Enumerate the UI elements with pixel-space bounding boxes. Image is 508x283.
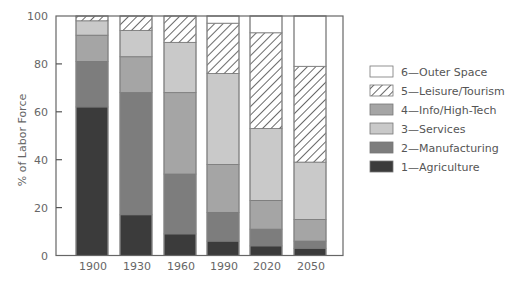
bar-segment xyxy=(294,248,326,255)
y-tick-label: 0 xyxy=(41,250,48,263)
x-tick-label: 2050 xyxy=(297,260,325,273)
bar-segment xyxy=(164,234,196,256)
bar-segment xyxy=(164,174,196,234)
bar-1930: 1930 xyxy=(120,16,152,273)
legend-item: 1—Agriculture xyxy=(370,161,480,174)
bar-segment xyxy=(207,164,239,212)
bar-segment xyxy=(76,21,108,35)
bar-segment xyxy=(120,215,152,256)
legend-swatch xyxy=(370,85,393,96)
bar-segment xyxy=(207,16,239,23)
bar-segment xyxy=(164,42,196,92)
bar-segment xyxy=(207,23,239,73)
legend-item: 6—Outer Space xyxy=(370,66,487,79)
bar-segment xyxy=(294,241,326,248)
bar-segment xyxy=(250,200,282,229)
y-tick-label: 40 xyxy=(34,154,48,167)
bars-group: 190019301960199020202050 xyxy=(76,16,326,273)
x-tick-label: 1930 xyxy=(123,260,151,273)
y-tick-label: 60 xyxy=(34,106,48,119)
y-tick-label: 100 xyxy=(27,10,48,23)
legend-label: 3—Services xyxy=(401,123,466,136)
bar-segment xyxy=(120,30,152,56)
bar-segment xyxy=(207,73,239,164)
x-tick-label: 1960 xyxy=(167,260,195,273)
bar-segment xyxy=(76,35,108,61)
bar-segment xyxy=(76,16,108,21)
legend-swatch xyxy=(370,123,393,134)
x-tick-label: 1900 xyxy=(79,260,107,273)
legend-label: 4—Info/High-Tech xyxy=(401,104,496,117)
bar-segment xyxy=(250,129,282,201)
legend-swatch xyxy=(370,66,393,77)
bar-1990: 1990 xyxy=(207,16,239,273)
stacked-bar-chart: 190019301960199020202050 020406080100 6—… xyxy=(0,0,508,283)
bar-segment xyxy=(294,16,326,66)
legend-swatch xyxy=(370,142,393,153)
x-tick-label: 2020 xyxy=(253,260,281,273)
x-tick-label: 1990 xyxy=(210,260,238,273)
bar-segment xyxy=(294,220,326,242)
legend-label: 6—Outer Space xyxy=(401,66,487,79)
bar-segment xyxy=(294,66,326,162)
y-tick-label: 80 xyxy=(34,58,48,71)
bar-segment xyxy=(120,16,152,30)
legend-item: 2—Manufacturing xyxy=(370,142,499,155)
bar-segment xyxy=(207,212,239,241)
legend-swatch xyxy=(370,161,393,172)
legend-label: 5—Leisure/Tourism xyxy=(401,85,505,98)
y-axis-title: % of Labor Force xyxy=(16,94,29,187)
bar-segment xyxy=(250,229,282,246)
bar-segment xyxy=(76,62,108,108)
bar-segment xyxy=(250,246,282,256)
bar-2050: 2050 xyxy=(294,16,326,273)
legend-swatch xyxy=(370,104,393,115)
bar-1900: 1900 xyxy=(76,16,108,273)
legend-label: 1—Agriculture xyxy=(401,161,480,174)
bar-segment xyxy=(250,33,282,129)
bar-segment xyxy=(76,107,108,255)
bar-segment xyxy=(164,93,196,174)
legend-item: 4—Info/High-Tech xyxy=(370,104,496,117)
bar-2020: 2020 xyxy=(250,16,282,273)
bar-segment xyxy=(207,241,239,255)
legend-item: 5—Leisure/Tourism xyxy=(370,85,505,98)
bar-segment xyxy=(164,16,196,42)
bar-segment xyxy=(250,16,282,33)
legend: 6—Outer Space5—Leisure/Tourism4—Info/Hig… xyxy=(370,66,505,174)
bar-segment xyxy=(120,93,152,215)
bar-segment xyxy=(294,162,326,219)
legend-label: 2—Manufacturing xyxy=(401,142,499,155)
bar-1960: 1960 xyxy=(164,16,196,273)
legend-item: 3—Services xyxy=(370,123,466,136)
bar-segment xyxy=(120,57,152,93)
y-tick-label: 20 xyxy=(34,202,48,215)
